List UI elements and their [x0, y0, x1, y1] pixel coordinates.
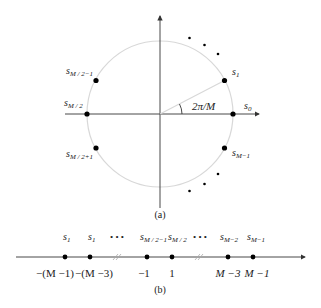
- nl-label-0: s1: [63, 231, 70, 244]
- nl-ellipsis-left: • • •: [110, 232, 124, 242]
- caption-b: (b): [154, 284, 166, 296]
- caption-a: (a): [154, 209, 165, 221]
- nl-value-4: M −3: [215, 267, 241, 279]
- nl-label-1: s1: [88, 231, 95, 244]
- nl-label-4: sM−2: [220, 231, 238, 244]
- angle-arc: [180, 104, 183, 114]
- figure-a: s0 s1 sM / 2−1 sM / 2 sM / 2+1 sM−1 2π/M…: [64, 16, 259, 221]
- nl-label-2: sM / 2−1: [140, 231, 167, 244]
- nl-value-5: M −1: [244, 267, 270, 279]
- point-sM2p1: [93, 145, 98, 150]
- angle-label: 2π/M: [192, 100, 216, 112]
- label-s1: s1: [232, 66, 239, 79]
- label-sM2m1: sM / 2−1: [66, 65, 93, 78]
- point-s1: [222, 78, 227, 83]
- label-s0: s0: [244, 100, 252, 113]
- nl-value-0: −(M −1): [36, 267, 74, 280]
- point-sM2m1: [93, 78, 98, 83]
- figure-b: s1 s1 • • • sM / 2−1 sM / 2 • • • sM−2 s…: [16, 231, 305, 296]
- nl-value-3: 1: [169, 267, 175, 279]
- label-sM2p1: sM / 2+1: [66, 148, 93, 161]
- point-s0: [230, 111, 235, 116]
- continuation-dots-lower: [188, 173, 219, 193]
- nl-value-1: −(M −3): [75, 267, 113, 280]
- nl-label-5: sM−1: [247, 231, 265, 244]
- point-sMm1: [222, 145, 227, 150]
- diagram-canvas: s0 s1 sM / 2−1 sM / 2 sM / 2+1 sM−1 2π/M…: [0, 0, 321, 308]
- continuation-dots-upper: [188, 37, 219, 56]
- label-sMm1: sM−1: [232, 147, 250, 160]
- nl-value-2: −1: [138, 267, 150, 279]
- nl-ellipsis-right: • • •: [193, 232, 207, 242]
- label-sM2: sM / 2: [64, 97, 83, 110]
- nl-label-3: sM / 2: [168, 231, 187, 244]
- point-sM2: [84, 111, 89, 116]
